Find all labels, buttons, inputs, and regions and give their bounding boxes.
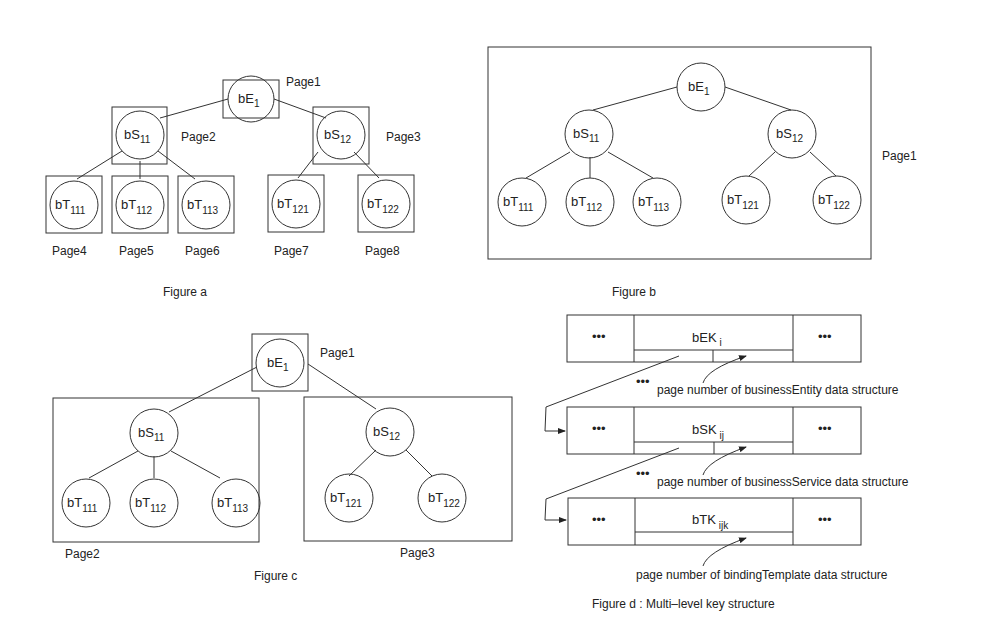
diagram-text: 113 bbox=[202, 205, 218, 216]
figure-b-caption: Figure b bbox=[612, 285, 656, 299]
diagram-text: bT bbox=[727, 192, 742, 207]
diagram-text: Page7 bbox=[274, 244, 309, 258]
figure-a bbox=[46, 76, 414, 233]
diagram-text: 122 bbox=[833, 200, 850, 211]
diagram-text: 112 bbox=[150, 503, 166, 514]
page1-frame bbox=[488, 47, 871, 259]
diagram-text: bT bbox=[67, 495, 82, 510]
diagram-text: 1 bbox=[283, 362, 289, 373]
diagram-text: bT bbox=[121, 197, 136, 212]
page-label: Page1 bbox=[882, 149, 917, 163]
diagram-text: 111 bbox=[70, 205, 86, 216]
diagram-text: bT122 bbox=[818, 192, 850, 211]
diagram-text: bT113 bbox=[217, 495, 249, 514]
diagram-text: bS11 bbox=[124, 127, 151, 145]
diagram-text: 121 bbox=[742, 200, 759, 211]
diagram-text: bS11 bbox=[573, 126, 600, 144]
diagram-text: 121 bbox=[345, 498, 362, 509]
diagram-text: ••• bbox=[818, 421, 832, 436]
diagram-text: bT bbox=[55, 197, 70, 212]
diagram-text: bS12 bbox=[776, 126, 803, 144]
figure-c-caption: Figure c bbox=[254, 569, 297, 583]
figure-b bbox=[488, 47, 871, 259]
diagram-text: ••• bbox=[592, 329, 606, 344]
diagram-text: bT bbox=[277, 196, 292, 211]
diagram-text: 113 bbox=[653, 202, 669, 213]
diagram-text: 12 bbox=[340, 134, 352, 145]
diagram-text: 121 bbox=[292, 204, 309, 215]
diagram-text: 113 bbox=[232, 503, 248, 514]
diagram-text: 11 bbox=[140, 134, 151, 145]
diagram-text: ••• bbox=[592, 421, 606, 436]
diagram-text: bSKij bbox=[692, 422, 724, 441]
diagram-text: bEKi bbox=[692, 330, 722, 348]
diagram-text: bT bbox=[503, 194, 518, 209]
page-label: Page2 bbox=[65, 547, 100, 561]
diagram-text: 11 bbox=[154, 432, 165, 443]
diagram-text: bT bbox=[217, 495, 232, 510]
diagram-text: bEK bbox=[692, 330, 717, 345]
diagram-text: bT121 bbox=[277, 196, 309, 215]
diagram-text: bS bbox=[124, 127, 140, 142]
diagram-text: bS12 bbox=[324, 127, 351, 145]
page2-frame bbox=[53, 398, 259, 542]
diagram-text: ••• bbox=[818, 329, 832, 344]
diagram-text: 111 bbox=[82, 503, 98, 514]
diagram-text: Page4 bbox=[52, 244, 87, 258]
diagram-text: 122 bbox=[382, 204, 399, 215]
diagram-text: bT121 bbox=[330, 490, 362, 509]
diagram-text: bE bbox=[238, 91, 254, 106]
annotation-businessEntity: page number of businessEntity data struc… bbox=[657, 383, 899, 397]
diagram-text: bE bbox=[267, 355, 283, 370]
diagram-text: ••• bbox=[636, 466, 650, 481]
diagram-text: Page8 bbox=[365, 244, 400, 258]
diagram-text: bT bbox=[367, 196, 382, 211]
diagram-text: bT113 bbox=[638, 194, 670, 213]
diagram-text: 12 bbox=[792, 133, 804, 144]
diagram-text: bS bbox=[138, 425, 154, 440]
diagram-text: ijk bbox=[719, 520, 729, 531]
annotation-businessService: page number of businessService data stru… bbox=[657, 475, 909, 489]
diagram-canvas: bE1 Page1 bS11 Page2 bS12 Page3 bT111 bT… bbox=[0, 0, 981, 639]
diagram-text: bE bbox=[688, 79, 704, 94]
diagram-text: 1 bbox=[254, 98, 260, 109]
diagram-text: bS12 bbox=[373, 424, 400, 442]
diagram-text: 112 bbox=[136, 205, 152, 216]
diagram-text: Page5 bbox=[119, 244, 154, 258]
annotation-bindingTemplate: page number of bindingTemplate data stru… bbox=[636, 568, 888, 582]
diagram-text: bSK bbox=[692, 422, 717, 437]
page3-frame bbox=[304, 397, 512, 541]
diagram-text: ••• bbox=[818, 512, 832, 527]
diagram-text: bT111 bbox=[55, 197, 86, 216]
diagram-text: bT bbox=[330, 490, 345, 505]
diagram-text: ••• bbox=[636, 374, 650, 389]
label-bE1-a: bE1 bbox=[238, 91, 260, 109]
diagram-text: ••• bbox=[592, 512, 606, 527]
diagram-text: 111 bbox=[518, 202, 534, 213]
diagram-text: bT bbox=[818, 192, 833, 207]
diagram-text: bT112 bbox=[121, 197, 153, 216]
diagram-text: 122 bbox=[443, 498, 460, 509]
page-label: Page3 bbox=[400, 546, 435, 560]
diagram-text: i bbox=[720, 337, 722, 348]
diagram-text: 12 bbox=[389, 431, 401, 442]
diagram-text: bT121 bbox=[727, 192, 759, 211]
page-label: Page2 bbox=[181, 130, 216, 144]
diagram-text: 112 bbox=[586, 202, 602, 213]
diagram-text: bT112 bbox=[135, 495, 167, 514]
diagram-text: bT113 bbox=[187, 197, 219, 216]
diagram-text: 1 bbox=[704, 86, 710, 97]
diagram-text: 11 bbox=[589, 133, 600, 144]
diagram-text: bT bbox=[135, 495, 150, 510]
diagram-text: bT bbox=[638, 194, 653, 209]
diagram-text: bS bbox=[373, 424, 389, 439]
diagram-text: bT122 bbox=[428, 490, 460, 509]
diagram-text: bS bbox=[573, 126, 589, 141]
diagram-text: bS bbox=[324, 127, 340, 142]
figure-d bbox=[545, 315, 861, 566]
diagram-text: bT111 bbox=[67, 495, 98, 514]
page-label: Page1 bbox=[286, 75, 321, 89]
diagram-text: bT111 bbox=[503, 194, 534, 213]
figure-d-caption: Figure d : Multi–level key structure bbox=[592, 597, 775, 611]
diagram-text: bS11 bbox=[138, 425, 165, 443]
